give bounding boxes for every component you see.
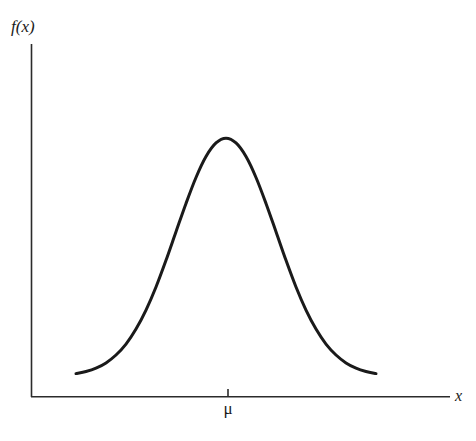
- x-axis-tick-label-mu: μ: [213, 399, 243, 419]
- figure-container: f(x) x μ: [0, 0, 476, 441]
- normal-distribution-plot: [0, 0, 476, 441]
- y-axis-label: f(x): [11, 17, 35, 37]
- density-curve: [76, 138, 376, 373]
- x-axis-label: x: [455, 387, 462, 405]
